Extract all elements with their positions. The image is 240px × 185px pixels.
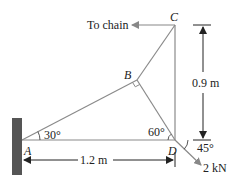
angle-load-label: 45° bbox=[197, 141, 214, 155]
wall-support bbox=[12, 118, 22, 175]
member-BC bbox=[137, 25, 175, 80]
point-D-label: D bbox=[167, 144, 177, 158]
load-label: 2 kN bbox=[203, 161, 227, 175]
truss-diagram: To chain C B A D 30° 60° 45° 0.9 m 1.2 m… bbox=[0, 0, 240, 185]
member-AB bbox=[22, 80, 137, 140]
angle-D-label: 60° bbox=[148, 125, 165, 139]
angle-arc-A bbox=[38, 132, 40, 140]
angle-arc-load bbox=[184, 140, 188, 149]
angle-A-label: 30° bbox=[44, 128, 61, 142]
point-C-label: C bbox=[170, 10, 179, 24]
angle-arc-D bbox=[168, 134, 171, 140]
point-A-label: A bbox=[23, 144, 32, 158]
point-B-label: B bbox=[124, 68, 132, 82]
width-label: 1.2 m bbox=[80, 153, 108, 167]
label-to-chain: To chain bbox=[87, 18, 128, 32]
truss-members bbox=[22, 25, 175, 140]
height-label: 0.9 m bbox=[192, 76, 220, 90]
